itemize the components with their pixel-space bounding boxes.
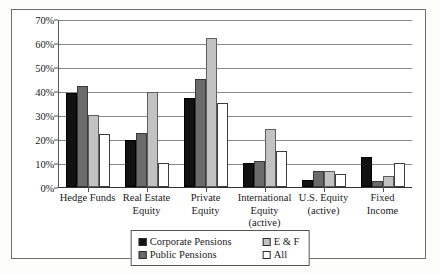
bar	[276, 151, 287, 187]
legend-swatch-icon	[263, 238, 271, 246]
bar-group	[294, 20, 353, 187]
legend-row: Public Pensions All	[139, 248, 300, 261]
legend-swatch-icon	[139, 238, 147, 246]
axis-region: 70%60%50%40%30%20%10%0%	[18, 20, 422, 188]
bar-group	[118, 20, 177, 187]
bar	[217, 103, 228, 187]
y-axis-tick-mark	[54, 44, 58, 45]
legend-item-all: All	[263, 248, 287, 261]
bar	[254, 161, 265, 187]
bar	[136, 133, 147, 187]
legend-item-e-and-f: E & F	[263, 235, 300, 248]
y-axis-tick-mark	[54, 140, 58, 141]
bar	[394, 163, 405, 187]
bar	[324, 171, 335, 187]
legend-swatch-icon	[263, 251, 271, 259]
bar	[158, 163, 169, 187]
bar-groups	[59, 20, 412, 187]
legend-row: Corporate Pensions E & F	[139, 235, 300, 248]
legend-item-public-pensions: Public Pensions	[139, 248, 263, 261]
y-axis-tick-mark	[54, 164, 58, 165]
x-axis-category-label: Private Equity	[176, 192, 235, 228]
legend-label: Corporate Pensions	[150, 235, 232, 248]
bar	[361, 157, 372, 187]
y-axis-tick-label: 10%	[35, 159, 54, 170]
bar	[372, 181, 383, 187]
legend-item-corporate-pensions: Corporate Pensions	[139, 235, 263, 248]
x-axis-category-label: Hedge Funds	[58, 192, 117, 228]
legend-swatch-icon	[139, 251, 147, 259]
x-axis-category-label: InternationalEquity (active)	[235, 192, 294, 228]
figure: 70%60%50%40%30%20%10%0% Hedge FundsReal …	[0, 0, 440, 274]
bar	[88, 115, 99, 187]
x-axis-category-label: Real EstateEquity	[117, 192, 176, 228]
y-axis-tick-label: 60%	[35, 39, 54, 50]
bar	[383, 176, 394, 187]
y-axis-tick-label: 20%	[35, 135, 54, 146]
y-axis-tick-label: 50%	[35, 63, 54, 74]
bar-group	[177, 20, 236, 187]
bar-group	[59, 20, 118, 187]
bar	[195, 79, 206, 187]
bar	[302, 180, 313, 187]
legend-label: Public Pensions	[150, 248, 217, 261]
y-axis-tick-mark	[54, 188, 58, 189]
bar	[147, 92, 158, 187]
bar	[313, 171, 324, 187]
y-axis-tick-label: 30%	[35, 111, 54, 122]
chart-area: 70%60%50%40%30%20%10%0% Hedge FundsReal …	[18, 16, 422, 252]
y-axis-tick-label: 40%	[35, 87, 54, 98]
y-axis-tick-mark	[54, 116, 58, 117]
bar	[99, 134, 110, 187]
x-axis-category-label: Fixed Income	[353, 192, 412, 228]
bar	[66, 93, 77, 187]
bar	[125, 140, 136, 187]
bar	[206, 38, 217, 187]
bar	[77, 86, 88, 187]
y-axis-tick-label: 70%	[35, 15, 54, 26]
y-axis-tick-mark	[54, 92, 58, 93]
legend-label: E & F	[274, 235, 300, 248]
y-axis-tick-mark	[54, 68, 58, 69]
x-axis-labels: Hedge FundsReal EstateEquityPrivate Equi…	[58, 192, 412, 228]
y-axis-tick-mark	[54, 20, 58, 21]
y-axis-tick-label: 0%	[40, 183, 54, 194]
legend-label: All	[274, 248, 287, 261]
bar-group	[353, 20, 412, 187]
legend: Corporate Pensions E & F Public Pensions…	[131, 230, 310, 266]
bar	[265, 129, 276, 187]
bar	[335, 174, 346, 187]
x-axis-category-label: U.S. Equity(active)	[294, 192, 353, 228]
bar-group	[235, 20, 294, 187]
plot-area	[58, 20, 412, 188]
bar	[243, 163, 254, 187]
bar	[184, 98, 195, 187]
